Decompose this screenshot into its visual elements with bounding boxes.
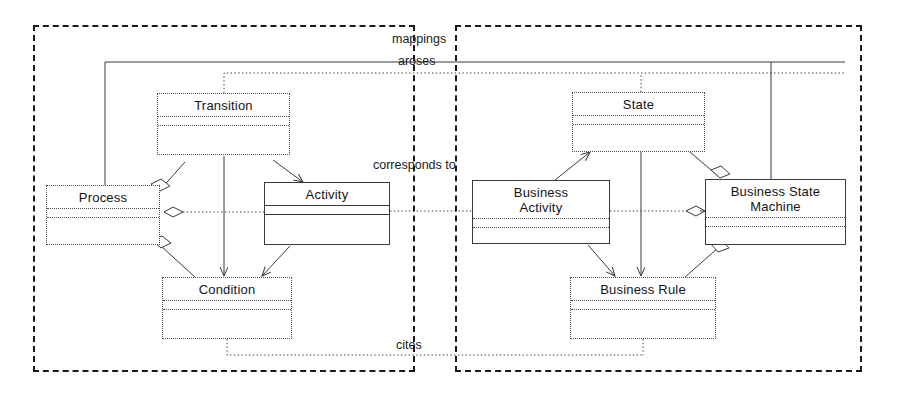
- class-activity-attributes: [265, 206, 389, 215]
- class-state[interactable]: State: [572, 92, 705, 152]
- edge-label-aroses: aroses: [398, 54, 436, 68]
- class-transition-name: Transition: [158, 94, 289, 117]
- class-state-name: State: [573, 93, 704, 116]
- class-condition-attributes: [163, 301, 291, 310]
- class-business-rule[interactable]: Business Rule: [570, 277, 716, 339]
- edge-label-corresponds-to: corresponds to: [373, 158, 456, 172]
- class-business-state-machine-attributes: [706, 218, 845, 227]
- class-business-activity-attributes: [473, 219, 609, 228]
- class-business-activity-operations: [473, 228, 609, 243]
- class-business-rule-attributes: [571, 301, 715, 310]
- class-activity-operations: [265, 215, 389, 244]
- class-business-rule-name: Business Rule: [571, 278, 715, 301]
- class-condition[interactable]: Condition: [162, 277, 292, 339]
- edge-label-cites: cites: [396, 338, 422, 352]
- class-condition-name: Condition: [163, 278, 291, 301]
- diagram-canvas: Transition Process Activity Condition St…: [0, 0, 898, 396]
- class-process-attributes: [47, 209, 159, 218]
- class-activity-name: Activity: [265, 183, 389, 206]
- class-business-state-machine-name: Business State Machine: [706, 180, 845, 218]
- class-state-attributes: [573, 116, 704, 125]
- class-business-activity-name: Business Activity: [473, 181, 609, 219]
- class-process[interactable]: Process: [46, 185, 160, 245]
- class-activity[interactable]: Activity: [264, 182, 390, 245]
- class-state-operations: [573, 125, 704, 151]
- class-condition-operations: [163, 310, 291, 338]
- class-process-operations: [47, 218, 159, 244]
- edge-label-mappings: mappings: [392, 32, 446, 46]
- class-business-rule-operations: [571, 310, 715, 338]
- class-business-state-machine-operations: [706, 227, 845, 244]
- class-business-state-machine[interactable]: Business State Machine: [705, 179, 846, 245]
- class-transition[interactable]: Transition: [157, 93, 290, 155]
- class-business-activity[interactable]: Business Activity: [472, 180, 610, 244]
- class-transition-operations: [158, 126, 289, 154]
- class-process-name: Process: [47, 186, 159, 209]
- class-transition-attributes: [158, 117, 289, 126]
